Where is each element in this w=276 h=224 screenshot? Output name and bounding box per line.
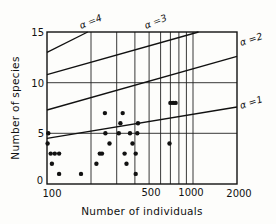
data-point <box>57 151 61 155</box>
data-point <box>134 172 138 176</box>
data-point <box>107 141 111 145</box>
y-tick-15: 15 <box>31 27 44 38</box>
y-tick-10: 10 <box>31 78 44 89</box>
y-axis-label: Number of species <box>9 56 21 159</box>
data-points <box>45 101 177 176</box>
data-point <box>173 101 177 105</box>
x-tick-100: 100 <box>42 188 61 199</box>
data-point <box>124 162 128 166</box>
data-point <box>79 172 83 176</box>
alpha-3-label: α =3 <box>143 12 169 31</box>
alpha-curve-2 <box>47 56 237 110</box>
data-point <box>94 162 98 166</box>
alpha-curve-4 <box>47 32 88 52</box>
y-tick-5: 5 <box>38 128 44 139</box>
data-point <box>117 131 121 135</box>
alpha-1-label: α =1 <box>238 93 264 111</box>
data-point <box>136 121 140 125</box>
alpha-curves <box>47 32 237 138</box>
data-point <box>122 151 126 155</box>
grid-lines <box>47 32 237 184</box>
data-point <box>135 131 139 135</box>
data-point <box>53 151 57 155</box>
data-point <box>100 151 104 155</box>
data-point <box>134 151 138 155</box>
species-individuals-chart: 15 10 5 0 100 500 1000 2000 Number of in… <box>0 0 276 224</box>
data-point <box>121 111 125 115</box>
alpha-4-label: α =4 <box>78 12 104 31</box>
alpha-curve-3 <box>47 32 199 75</box>
plot-frame <box>47 32 237 184</box>
data-point <box>50 162 54 166</box>
data-point <box>167 141 171 145</box>
data-point <box>118 121 122 125</box>
x-axis-label: Number of individuals <box>81 205 203 217</box>
data-point <box>128 131 132 135</box>
x-tick-2000: 2000 <box>226 188 251 199</box>
data-point <box>103 131 107 135</box>
alpha-2-label: α =2 <box>238 30 264 48</box>
y-tick-0: 0 <box>37 175 43 186</box>
data-point <box>46 131 50 135</box>
data-point <box>49 151 53 155</box>
x-tick-1000: 1000 <box>178 187 203 198</box>
data-point <box>103 111 107 115</box>
data-point <box>130 141 134 145</box>
data-point <box>57 172 61 176</box>
x-tick-500: 500 <box>141 187 160 198</box>
data-point <box>45 141 49 145</box>
